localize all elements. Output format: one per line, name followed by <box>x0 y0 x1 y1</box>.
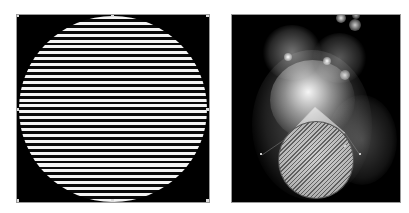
selection-handle[interactable] <box>206 199 209 202</box>
glow-blobs-canvas <box>231 14 401 203</box>
selection-handle[interactable] <box>16 199 19 202</box>
selection-handle[interactable] <box>206 14 209 17</box>
selection-handle[interactable] <box>260 153 262 155</box>
selection-handle[interactable] <box>111 14 114 17</box>
striped-circle-shape[interactable] <box>19 16 207 202</box>
hatched-circle-selection[interactable] <box>278 121 354 199</box>
selection-handle[interactable] <box>16 108 19 111</box>
selection-handle[interactable] <box>359 153 361 155</box>
selection-handle[interactable] <box>206 108 209 111</box>
striped-circle-canvas <box>16 14 210 203</box>
selection-handle[interactable] <box>111 199 114 202</box>
selection-handle[interactable] <box>344 145 346 147</box>
selection-handle[interactable] <box>16 14 19 17</box>
